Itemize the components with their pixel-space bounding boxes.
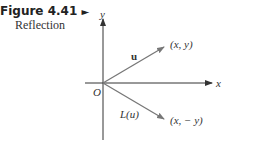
vector-Lu-label: L(u): [119, 108, 139, 121]
point-xy-label: (x, y): [170, 38, 193, 51]
point-x-negy-label: (x, − y): [170, 114, 203, 127]
origin-label: O: [93, 86, 101, 98]
reflection-diagram: y x O u (x, y) L(u) (x, − y): [0, 0, 267, 154]
vector-u-label: u: [131, 50, 137, 62]
y-axis-label: y: [99, 8, 105, 20]
x-axis-label: x: [215, 77, 221, 89]
